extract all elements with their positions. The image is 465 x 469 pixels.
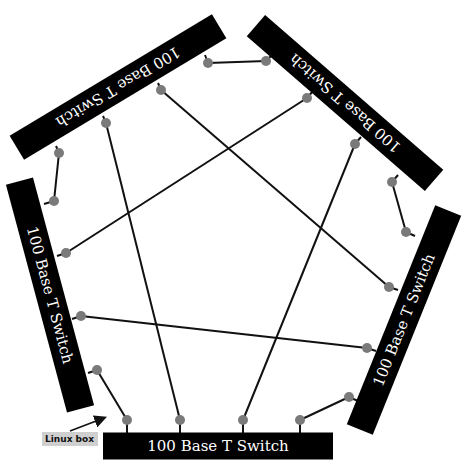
port-dot bbox=[302, 93, 312, 103]
switch-label: 100 Base T Switch bbox=[147, 437, 289, 455]
network-diagram: 100 Base T Switch100 Base T Switch100 Ba… bbox=[0, 0, 465, 469]
port-dot bbox=[76, 311, 86, 321]
network-link bbox=[106, 123, 180, 420]
switch-left: 100 Base T Switch bbox=[6, 177, 94, 412]
switch-label: 100 Base T Switch bbox=[285, 50, 404, 157]
network-link bbox=[81, 316, 367, 348]
port-dot bbox=[261, 56, 271, 66]
network-link bbox=[300, 397, 349, 420]
port-dot bbox=[350, 139, 360, 149]
network-link bbox=[243, 144, 355, 420]
arrow-icon bbox=[70, 418, 104, 431]
port-dot bbox=[156, 85, 166, 95]
port-dot bbox=[49, 196, 59, 206]
port-dot bbox=[203, 58, 213, 68]
port-dot bbox=[295, 415, 305, 425]
switch-layer: 100 Base T Switch100 Base T Switch100 Ba… bbox=[6, 14, 461, 459]
linux-box-annotation: Linux box bbox=[42, 418, 104, 446]
network-link bbox=[392, 182, 406, 232]
switch-right: 100 Base T Switch bbox=[347, 205, 461, 434]
network-link bbox=[208, 61, 266, 63]
switch-top-right: 100 Base T Switch bbox=[247, 15, 443, 191]
port-dot bbox=[362, 343, 372, 353]
linux-box-label: Linux box bbox=[45, 434, 94, 444]
switch-bottom: 100 Base T Switch bbox=[103, 433, 333, 460]
port-dot bbox=[54, 148, 64, 158]
port-dot bbox=[61, 248, 71, 258]
switch-label: 100 Base T Switch bbox=[369, 251, 439, 389]
port-dot bbox=[344, 392, 354, 402]
port-dot bbox=[92, 365, 102, 375]
port-dot bbox=[401, 227, 411, 237]
port-dot bbox=[122, 415, 132, 425]
network-link bbox=[54, 153, 59, 201]
port-dot bbox=[175, 415, 185, 425]
network-link bbox=[97, 370, 127, 420]
port-dot bbox=[387, 177, 397, 187]
port-dot bbox=[101, 118, 111, 128]
port-dot bbox=[384, 282, 394, 292]
switch-top-left: 100 Base T Switch bbox=[10, 14, 227, 160]
port-dot bbox=[238, 415, 248, 425]
